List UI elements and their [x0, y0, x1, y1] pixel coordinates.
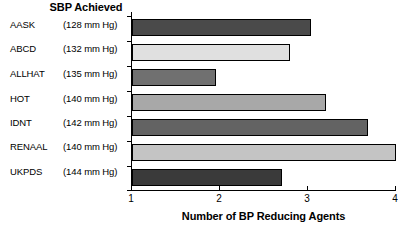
- x-axis-tick: [395, 186, 396, 190]
- y-axis-tick: [127, 141, 131, 142]
- y-axis-tick: [127, 41, 131, 42]
- x-axis-tick: [219, 186, 220, 190]
- study-name-label: AASK: [10, 19, 35, 30]
- study-name-label: ALLHAT: [10, 68, 45, 79]
- sbp-value-label: (128 mm Hg): [63, 19, 117, 30]
- y-axis-tick: [127, 91, 131, 92]
- plot-area: [131, 12, 395, 190]
- bar: [132, 19, 311, 36]
- category-label-row: AASK (128 mm Hg): [0, 12, 131, 36]
- category-label-row: ABCD (132 mm Hg): [0, 36, 131, 60]
- sbp-value-label: (144 mm Hg): [63, 166, 117, 177]
- sbp-value-label: (132 mm Hg): [63, 43, 117, 54]
- study-name-label: RENAAL: [10, 141, 47, 152]
- bar: [132, 169, 282, 186]
- bar: [132, 119, 368, 136]
- bar-chart-figure: SBP Achieved AASK (128 mm Hg) ABCD (132 …: [0, 0, 407, 228]
- x-axis-tick-label: 3: [297, 193, 317, 204]
- x-axis-tick-label: 2: [209, 193, 229, 204]
- x-axis-tick-label: 4: [385, 193, 405, 204]
- x-axis: 1 2 3 4 Number of BP Reducing Agents: [131, 190, 396, 228]
- category-label-row: UKPDS (144 mm Hg): [0, 159, 131, 183]
- category-label-row: ALLHAT (135 mm Hg): [0, 61, 131, 85]
- sbp-value-label: (135 mm Hg): [63, 68, 117, 79]
- category-label-column: SBP Achieved AASK (128 mm Hg) ABCD (132 …: [0, 0, 131, 190]
- bar: [132, 144, 396, 161]
- x-axis-tick: [131, 186, 132, 190]
- study-name-label: UKPDS: [10, 166, 42, 177]
- y-axis-tick: [127, 166, 131, 167]
- y-axis-tick: [127, 116, 131, 117]
- study-name-label: HOT: [10, 93, 30, 104]
- x-axis-tick-label: 1: [121, 193, 141, 204]
- study-name-label: IDNT: [10, 117, 32, 128]
- sbp-value-label: (142 mm Hg): [63, 117, 117, 128]
- y-axis-tick: [127, 16, 131, 17]
- sbp-value-label: (140 mm Hg): [63, 93, 117, 104]
- x-axis-line: [131, 190, 396, 191]
- bar: [132, 69, 216, 86]
- bar: [132, 44, 290, 61]
- study-name-label: ABCD: [10, 43, 36, 54]
- x-axis-tick: [307, 186, 308, 190]
- category-label-row: HOT (140 mm Hg): [0, 86, 131, 110]
- category-label-row: RENAAL (140 mm Hg): [0, 134, 131, 158]
- bar: [132, 94, 326, 111]
- category-label-row: IDNT (142 mm Hg): [0, 110, 131, 134]
- x-axis-title: Number of BP Reducing Agents: [131, 210, 396, 222]
- y-axis-tick: [127, 66, 131, 67]
- sbp-value-label: (140 mm Hg): [63, 141, 117, 152]
